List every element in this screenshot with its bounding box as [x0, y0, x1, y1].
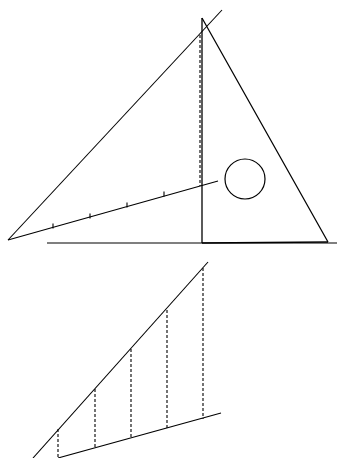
tick-line: [8, 181, 218, 240]
triangle-base: [202, 242, 328, 243]
bottom-line: [58, 413, 221, 458]
diagonal-line: [33, 262, 208, 458]
circle-shape: [225, 159, 265, 199]
geometry-diagram: [0, 0, 342, 458]
diagonal-line: [8, 10, 222, 240]
triangle-hypotenuse: [202, 18, 328, 242]
bottom-figure: [33, 262, 221, 458]
top-figure: [8, 10, 337, 243]
